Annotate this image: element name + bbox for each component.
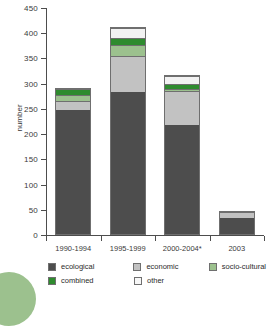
- x-tick: [46, 236, 47, 241]
- plot-area: 050100150200250300350400450 1990-1994199…: [46, 8, 264, 236]
- x-tick-label: 2000-2004*: [163, 244, 202, 253]
- bar-segment-ecological: [220, 218, 254, 234]
- bar-2000-2004*: [164, 75, 200, 235]
- y-tick-label: 450: [24, 4, 38, 13]
- bar-segment-ecological: [111, 92, 145, 234]
- bar-2003: [219, 211, 255, 235]
- legend-label: other: [147, 276, 164, 285]
- bar-1995-1999: [110, 27, 146, 235]
- bar-segment-combined: [111, 38, 145, 46]
- y-tick: [41, 210, 46, 211]
- bar-segment-other: [165, 76, 199, 84]
- bar-segment-ecological: [56, 110, 90, 234]
- y-tick-label: 0: [33, 231, 38, 240]
- legend-swatch-other: [134, 277, 142, 285]
- bar-segment-ecological: [165, 125, 199, 234]
- y-tick-label: 400: [24, 29, 38, 38]
- legend-item-other[interactable]: other: [134, 276, 210, 285]
- y-tick: [41, 185, 46, 186]
- y-tick: [41, 58, 46, 59]
- y-tick: [41, 33, 46, 34]
- x-tick: [264, 236, 265, 241]
- bar-segment-economic: [111, 56, 145, 91]
- legend-label: ecological: [61, 262, 94, 271]
- y-tick-label: 100: [24, 180, 38, 189]
- y-tick-label: 300: [24, 79, 38, 88]
- y-axis-line: [46, 8, 47, 236]
- legend-row-1: ecologicaleconomicsocio-cultural: [48, 262, 266, 271]
- bar-segment-economic: [56, 101, 90, 109]
- y-tick-label: 200: [24, 130, 38, 139]
- y-tick-label: 350: [24, 54, 38, 63]
- legend-item-socio-cultural[interactable]: socio-cultural: [209, 262, 266, 271]
- x-tick: [210, 236, 211, 241]
- y-tick-label: 250: [24, 104, 38, 113]
- decorative-circle: [0, 272, 36, 326]
- y-tick: [41, 84, 46, 85]
- y-tick: [41, 8, 46, 9]
- y-axis-label: number: [15, 104, 24, 131]
- x-tick-label: 1990-1994: [55, 244, 91, 253]
- y-tick-label: 150: [24, 155, 38, 164]
- legend-item-combined[interactable]: combined: [48, 276, 134, 285]
- x-tick: [101, 236, 102, 241]
- y-tick-label: 50: [29, 205, 38, 214]
- legend-item-economic[interactable]: economic: [133, 262, 208, 271]
- y-tick: [41, 134, 46, 135]
- x-tick: [155, 236, 156, 241]
- bar-segment-economic: [165, 91, 199, 125]
- legend-label: socio-cultural: [222, 262, 266, 271]
- y-tick: [41, 109, 46, 110]
- x-tick-label: 1995-1999: [110, 244, 146, 253]
- legend-swatch-ecological: [48, 263, 56, 271]
- bar-segment-socio-cultural: [111, 45, 145, 56]
- legend-swatch-combined: [48, 277, 56, 285]
- legend-item-ecological[interactable]: ecological: [48, 262, 133, 271]
- legend-label: economic: [146, 262, 178, 271]
- legend-row-2: combinedother: [48, 276, 266, 285]
- x-tick-label: 2003: [228, 244, 245, 253]
- bar-segment-other: [111, 28, 145, 38]
- legend-swatch-socio-cultural: [209, 263, 217, 271]
- legend-label: combined: [61, 276, 94, 285]
- legend-swatch-economic: [133, 263, 141, 271]
- bar-1990-1994: [55, 88, 91, 235]
- chart-legend: ecologicaleconomicsocio-cultural combine…: [48, 262, 266, 290]
- y-tick: [41, 159, 46, 160]
